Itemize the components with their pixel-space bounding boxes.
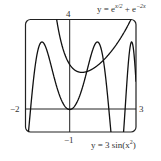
y-min-label: −1 xyxy=(64,135,74,145)
curve2-label: y = 3 sin(x2) xyxy=(91,139,136,150)
curve-exponential xyxy=(26,0,137,72)
x-max-label: 3 xyxy=(139,104,144,114)
y-max-label: 4 xyxy=(66,9,71,19)
graph: 4 −2 3 −1 y = ex/2 + e−2x y = 3 sin(x2) xyxy=(0,0,161,161)
viewing-window xyxy=(26,20,137,133)
curve1-label: y = ex/2 + e−2x xyxy=(97,3,146,14)
x-min-label: −2 xyxy=(10,104,20,114)
